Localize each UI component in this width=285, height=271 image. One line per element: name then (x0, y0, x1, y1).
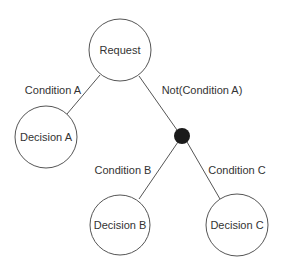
node-decision-a-label: Decision A (20, 131, 73, 143)
node-decision-b-label: Decision B (94, 219, 147, 231)
node-decision-c: Decision C (206, 194, 268, 256)
node-decision-a: Decision A (15, 106, 77, 168)
node-request-label: Request (100, 44, 141, 56)
decision-tree-diagram: Request Decision A Decision B Decision C… (0, 0, 285, 271)
node-decision-c-label: Decision C (210, 219, 263, 231)
edge-label-condition-a: Condition A (25, 84, 82, 96)
node-decision-b: Decision B (90, 195, 150, 255)
edge-label-condition-c: Condition C (208, 164, 266, 176)
node-request: Request (89, 19, 151, 81)
junction-node (174, 128, 190, 144)
edge-label-not-condition-a: Not(Condition A) (162, 84, 243, 96)
edge-label-condition-b: Condition B (95, 164, 152, 176)
